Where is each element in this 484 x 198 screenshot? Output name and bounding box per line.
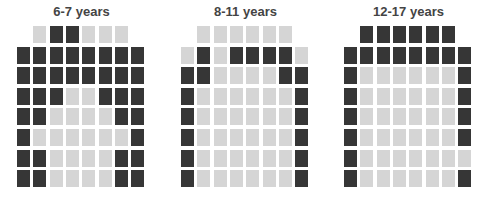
dark-cell [33,170,46,187]
light-cell [442,108,455,125]
light-cell [409,150,422,167]
dark-cell [295,108,308,125]
light-cell [33,129,46,146]
light-cell [197,108,210,125]
light-cell [50,108,63,125]
dark-cell [131,129,144,146]
dark-cell [263,47,276,64]
dark-cell [115,150,128,167]
dark-cell [131,47,144,64]
dark-cell [82,47,95,64]
dark-cell [181,108,194,125]
light-cell [360,129,373,146]
light-cell [230,88,243,105]
light-cell [214,67,227,84]
dark-cell [344,170,357,187]
light-cell [214,170,227,187]
dark-cell [131,170,144,187]
dark-cell [295,88,308,105]
light-cell [214,47,227,64]
light-cell [230,150,243,167]
light-cell [246,129,259,146]
light-cell [377,108,390,125]
dark-cell [99,67,112,84]
light-cell [82,170,95,187]
light-cell [263,108,276,125]
dark-cell [33,47,46,64]
dark-cell [458,88,471,105]
light-cell [409,88,422,105]
dark-cell [99,47,112,64]
light-cell [214,108,227,125]
dark-cell [17,67,30,84]
dark-cell [197,47,210,64]
light-cell [377,67,390,84]
dark-cell [458,47,471,64]
light-cell [82,26,95,43]
dark-cell [115,47,128,64]
light-cell [99,108,112,125]
light-cell [360,108,373,125]
light-cell [197,170,210,187]
light-cell [426,108,439,125]
dark-cell [344,47,357,64]
light-cell [295,47,308,64]
light-cell [181,47,194,64]
dark-cell [458,67,471,84]
light-cell [263,129,276,146]
dark-cell [458,129,471,146]
dark-cell [344,129,357,146]
light-cell [246,108,259,125]
light-cell [99,170,112,187]
dark-cell [426,26,439,43]
light-cell [360,170,373,187]
light-cell [393,170,406,187]
dark-cell [377,26,390,43]
light-cell [458,150,471,167]
dark-cell [393,47,406,64]
light-cell [115,129,128,146]
light-cell [426,129,439,146]
dark-cell [17,150,30,167]
light-cell [377,170,390,187]
light-cell [360,88,373,105]
light-cell [214,88,227,105]
dark-cell [17,129,30,146]
dark-cell [115,108,128,125]
light-cell [263,26,276,43]
dark-cell [66,67,79,84]
light-cell [214,26,227,43]
light-cell [82,150,95,167]
light-cell [279,170,292,187]
dark-cell [131,67,144,84]
light-cell [279,150,292,167]
light-cell [377,129,390,146]
dark-cell [50,26,63,43]
light-cell [279,26,292,43]
light-cell [66,170,79,187]
dark-cell [115,170,128,187]
dark-cell [17,108,30,125]
panel-8-11-years: 8-11 years [181,0,310,198]
light-cell [230,129,243,146]
dark-cell [426,47,439,64]
dark-cell [115,67,128,84]
dark-cell [377,47,390,64]
light-cell [360,67,373,84]
light-cell [377,88,390,105]
dark-cell [458,108,471,125]
panel-6-7-years: 6-7 years [17,0,146,198]
dark-cell [344,150,357,167]
light-cell [197,88,210,105]
dark-cell [17,170,30,187]
light-cell [197,26,210,43]
panel-12-17-years: 12-17 years [344,0,473,198]
dark-cell [442,47,455,64]
light-cell [66,129,79,146]
dark-cell [82,67,95,84]
light-cell [50,129,63,146]
dark-cell [115,88,128,105]
light-cell [82,108,95,125]
dark-cell [66,26,79,43]
dark-cell [181,150,194,167]
